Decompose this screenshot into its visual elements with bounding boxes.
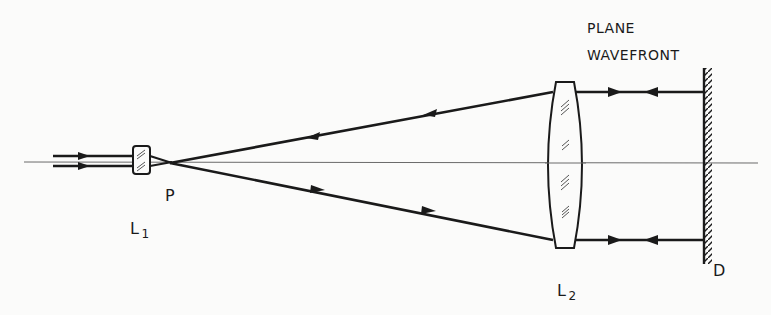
optics-diagram: PLANE WAVEFRONT L1 P L2 D	[0, 0, 771, 315]
collimated-rays	[575, 92, 704, 240]
diverging-rays	[170, 92, 553, 240]
input-beam	[53, 156, 133, 166]
lens-l2-label: L2	[557, 283, 577, 302]
plane-wavefront-label-line2: WAVEFRONT	[587, 48, 680, 62]
lens-l2-letter: L	[557, 281, 566, 300]
lens-l1-letter: L	[130, 219, 139, 238]
lens-l2-subscript: 2	[568, 289, 576, 303]
lens-l1-subscript: 1	[141, 227, 149, 241]
lens-l1-label: L1	[130, 221, 150, 240]
mirror-d	[704, 68, 712, 264]
focal-point-label: P	[165, 188, 175, 204]
lens-l2	[545, 82, 586, 248]
collimated-arrows-icon	[608, 87, 658, 245]
lens-l1	[133, 146, 150, 174]
plane-wavefront-label-line1: PLANE	[587, 21, 635, 35]
mirror-d-label: D	[713, 263, 726, 279]
converging-rays	[150, 156, 172, 166]
